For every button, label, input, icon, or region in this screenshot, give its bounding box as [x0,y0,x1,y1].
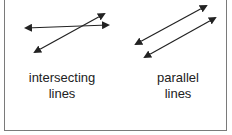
parallel-lines-group [136,6,215,57]
intersecting-line-a [26,25,108,28]
intersecting-lines-label: intersecting lines [14,70,110,102]
parallel-line-a [136,6,206,44]
intersecting-line-b [35,14,104,52]
intersecting-lines-group [26,14,108,52]
label-line-1: intersecting [14,70,110,86]
label-line-1: parallel [130,70,226,86]
parallel-line-b [145,18,215,57]
lines-canvas [0,0,232,135]
label-line-2: lines [130,86,226,102]
parallel-lines-label: parallel lines [130,70,226,102]
label-line-2: lines [14,86,110,102]
